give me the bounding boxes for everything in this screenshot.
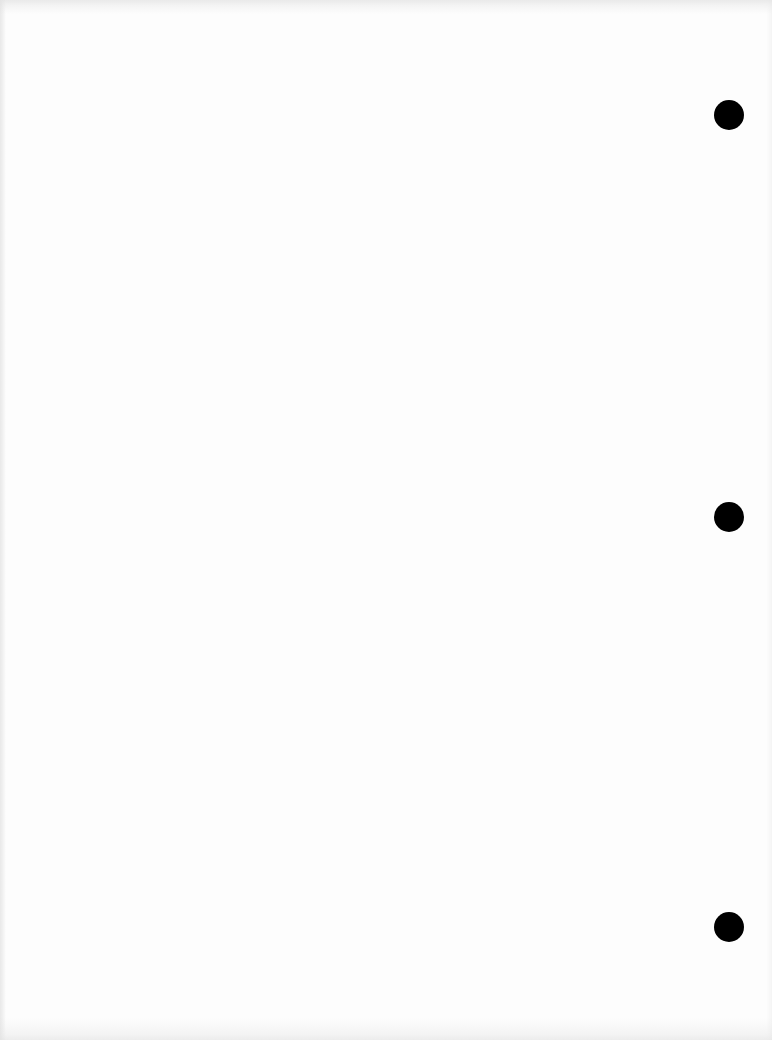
blank-page bbox=[0, 0, 772, 1040]
scan-edge-bottom bbox=[0, 1018, 772, 1040]
punch-hole-bottom bbox=[714, 912, 744, 942]
punch-hole-top bbox=[714, 100, 744, 130]
punch-hole-middle bbox=[714, 502, 744, 532]
scan-edge-left bbox=[0, 0, 6, 1040]
scan-edge-top bbox=[0, 0, 772, 14]
